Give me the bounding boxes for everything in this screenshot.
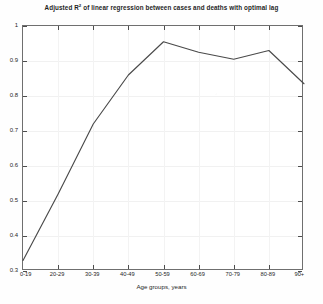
x-axis-tick-labels: 0-1920-2930-3940-4950-5960-6970-7980-899… — [22, 271, 303, 281]
y-axis-tick-label: 1 — [0, 22, 18, 28]
x-axis-title: Age groups, years — [0, 283, 323, 290]
y-axis-tick-labels: 0.30.40.50.60.70.80.91 — [0, 25, 323, 270]
chart-title-prefix: Adjusted R — [45, 4, 79, 11]
y-axis-tick-label: 0.3 — [0, 267, 18, 273]
y-axis-tick-label: 0.5 — [0, 197, 18, 203]
y-axis-tick-label: 0.6 — [0, 162, 18, 168]
chart-title: Adjusted R2 of linear regression between… — [0, 4, 323, 11]
chart-title-suffix: of linear regression between cases and d… — [81, 4, 278, 11]
x-axis-tick-label: 30-39 — [85, 271, 100, 277]
x-axis-tick-label: 0-19 — [20, 271, 31, 277]
x-axis-tick-label: 50-59 — [155, 271, 170, 277]
y-axis-tick-label: 0.8 — [0, 92, 18, 98]
x-axis-tick-label: 60-69 — [190, 271, 205, 277]
x-axis-tick-label: 40-49 — [120, 271, 135, 277]
x-axis-tick-label: 20-29 — [50, 271, 65, 277]
x-axis-tick-label: 70-79 — [225, 271, 240, 277]
x-axis-tick-label: 80-89 — [261, 271, 276, 277]
y-axis-tick-label: 0.4 — [0, 232, 18, 238]
x-axis-tick-label: 90+ — [295, 271, 305, 277]
y-axis-tick-label: 0.9 — [0, 57, 18, 63]
chart-figure: Adjusted R2 of linear regression between… — [0, 0, 323, 304]
y-axis-tick-label: 0.7 — [0, 127, 18, 133]
